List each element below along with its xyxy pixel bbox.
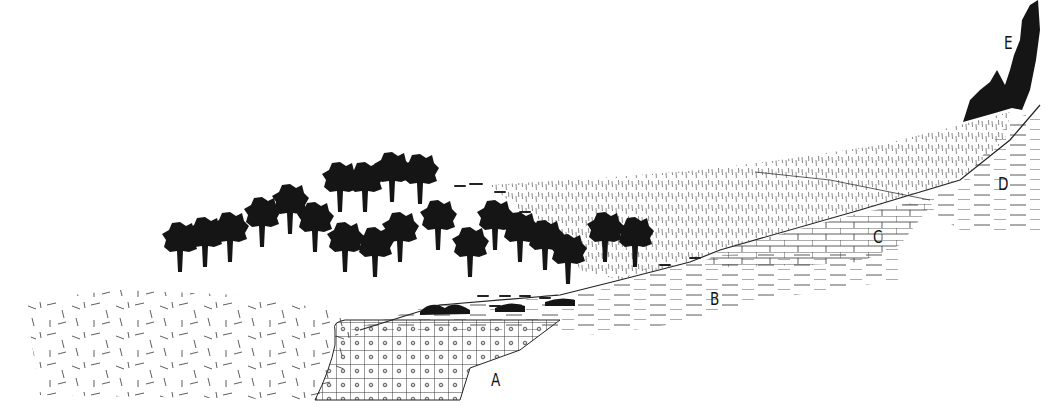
label-a: A bbox=[491, 372, 500, 389]
label-d: D bbox=[998, 176, 1008, 193]
stratum-e-cliff bbox=[963, 0, 1040, 122]
stratum-a bbox=[315, 320, 560, 400]
label-c: C bbox=[873, 229, 883, 246]
rubble-area bbox=[25, 290, 360, 400]
label-b: B bbox=[710, 291, 719, 308]
label-e: E bbox=[1004, 35, 1013, 52]
cross-section-diagram bbox=[0, 0, 1045, 415]
